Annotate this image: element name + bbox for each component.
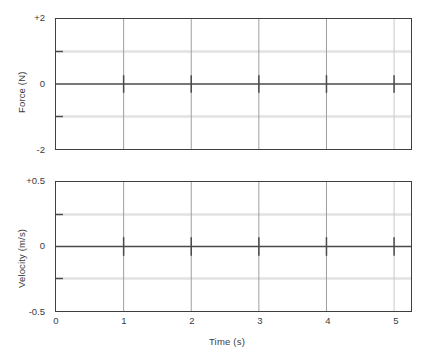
force-ytick-label-mid: 0: [0, 78, 50, 89]
force-plot-svg: [56, 19, 411, 149]
force-ytick-label-bottom: -2: [0, 144, 50, 155]
force-plot-area: [55, 18, 412, 150]
velocity-ytick-label-top: +0.5: [0, 175, 50, 186]
x-axis-tick-labels: 0 1 2 3 4 5: [0, 315, 438, 331]
xtick-label-4: 4: [325, 315, 330, 326]
xtick-label-0: 0: [53, 315, 58, 326]
velocity-ytick-label-mid: 0: [0, 240, 50, 251]
force-ytick-label-top: +2: [0, 12, 50, 23]
force-chart-panel: Force (N) +2 0 -2: [0, 0, 438, 170]
xtick-label-1: 1: [121, 315, 126, 326]
xtick-label-2: 2: [189, 315, 194, 326]
velocity-y-axis-title: Velocity (m/s): [16, 229, 27, 288]
physics-figure: Force (N) +2 0 -2: [0, 0, 438, 356]
velocity-chart-panel: Velocity (m/s) +0.5 0 -0.5: [0, 163, 438, 356]
velocity-plot-svg: [56, 182, 411, 311]
velocity-plot-area: [55, 181, 412, 312]
x-axis-title-container: Time (s): [0, 336, 438, 347]
x-axis-title: Time (s): [209, 336, 245, 347]
xtick-label-3: 3: [257, 315, 262, 326]
xtick-label-5: 5: [393, 315, 398, 326]
